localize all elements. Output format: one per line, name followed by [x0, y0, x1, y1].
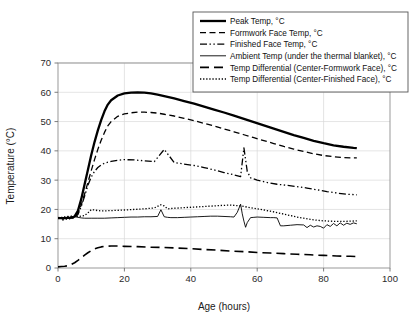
y-tick-label: 30: [40, 175, 51, 186]
legend-label-5: Temp Differential (Center-Formwork Face)…: [230, 64, 397, 73]
x-tick-label: 0: [55, 273, 60, 284]
temperature-vs-age-line-chart: 010203040506070 020406080100 Age (hours)…: [0, 0, 418, 320]
x-axis-title: Age (hours): [198, 301, 250, 312]
y-axis-title: Temperature (°C): [5, 128, 16, 205]
y-tick-label: 10: [40, 233, 51, 244]
chart-figure: 010203040506070 020406080100 Age (hours)…: [0, 0, 418, 320]
y-tick-label: 20: [40, 204, 51, 215]
x-tick-label: 60: [252, 273, 263, 284]
legend-label-2: Formwork Face Temp, °C: [230, 29, 323, 38]
y-tick-label: 50: [40, 116, 51, 127]
x-tick-label: 80: [318, 273, 329, 284]
y-tick-label: 70: [40, 57, 51, 68]
y-tick-label: 60: [40, 87, 51, 98]
legend-label-1: Peak Temp, °C: [230, 17, 285, 26]
chart-legend: Peak Temp, °CFormwork Face Temp, °CFinis…: [193, 12, 408, 92]
x-tick-label: 20: [119, 273, 130, 284]
legend-label-3: Finished Face Temp, °C: [230, 40, 317, 49]
y-tick-label: 0: [46, 262, 51, 273]
legend-label-4: Ambient Temp (under the thermal blanket)…: [230, 52, 397, 61]
legend-label-6: Temp Differential (Center-Finished Face)…: [230, 75, 392, 84]
x-tick-label: 40: [186, 273, 197, 284]
y-tick-label: 40: [40, 145, 51, 156]
x-tick-label: 100: [382, 273, 398, 284]
